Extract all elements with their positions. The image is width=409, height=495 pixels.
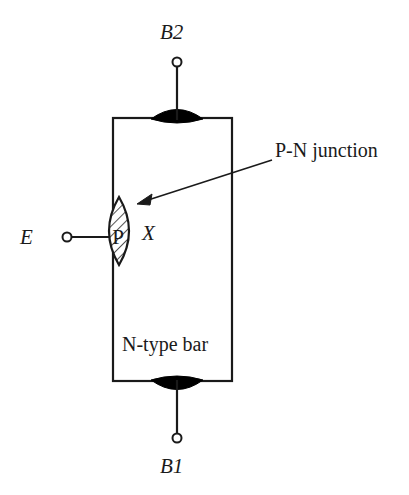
p-region-label: P: [112, 225, 124, 249]
ujt-diagram: P B2 B1 E X P-N junction N-type bar: [0, 0, 409, 495]
label-emitter: E: [20, 227, 33, 248]
label-base-one: B1: [160, 456, 183, 477]
base2-terminal-node: [173, 58, 182, 67]
base1-terminal-node: [173, 434, 182, 443]
label-point-x: X: [142, 223, 155, 244]
label-base-two: B2: [160, 22, 183, 43]
label-n-type-bar: N-type bar: [122, 334, 208, 354]
label-pn-junction: P-N junction: [275, 140, 378, 160]
emitter-terminal-node: [63, 233, 72, 242]
ujt-schematic-svg: P: [0, 0, 409, 495]
